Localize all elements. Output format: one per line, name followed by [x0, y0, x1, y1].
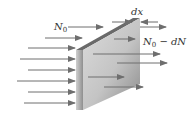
incident-beam-arrows [17, 38, 82, 103]
thickness-label: dx [131, 6, 143, 17]
transmitted-intensity-label: N0 − dN [142, 36, 187, 49]
slab [76, 18, 140, 110]
absorption-diagram: dx N0 N0 − dN [0, 0, 191, 117]
slab-side-edge [76, 50, 83, 110]
incident-intensity-label: N0 [53, 21, 67, 34]
